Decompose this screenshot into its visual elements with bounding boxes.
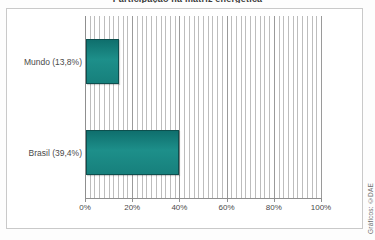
x-tick-label: 60% xyxy=(219,203,235,212)
x-tick xyxy=(179,198,180,202)
x-tick-label: 100% xyxy=(311,203,331,212)
gridline-major xyxy=(179,16,180,198)
category-label: Brasil (39,4%) xyxy=(29,148,82,158)
gridline-minor xyxy=(208,16,209,198)
gridline-minor xyxy=(189,16,190,198)
x-tick-label: 40% xyxy=(171,203,187,212)
gridline-minor xyxy=(217,16,218,198)
category-label: Mundo (13,8%) xyxy=(24,57,82,67)
x-tick xyxy=(321,198,322,202)
gridline-minor xyxy=(198,16,199,198)
x-tick xyxy=(227,198,228,202)
gridline-minor xyxy=(255,16,256,198)
gridline-minor xyxy=(312,16,313,198)
gridline-minor xyxy=(245,16,246,198)
gridline-minor xyxy=(184,16,185,198)
gridline-minor xyxy=(222,16,223,198)
chart-title: Participação na matriz energética xyxy=(0,0,375,3)
credit-text: Gráficos: ©DAE xyxy=(367,183,374,234)
x-axis-line xyxy=(85,198,321,199)
x-tick xyxy=(132,198,133,202)
plot-area xyxy=(85,16,321,198)
chart-page: Participação na matriz energética Mundo … xyxy=(0,0,375,240)
gridline-major xyxy=(321,16,322,198)
gridline-minor xyxy=(194,16,195,198)
x-tick-label: 80% xyxy=(266,203,282,212)
gridline-minor xyxy=(250,16,251,198)
gridline-major xyxy=(227,16,228,198)
gridline-minor xyxy=(264,16,265,198)
gridline-minor xyxy=(288,16,289,198)
x-tick-label: 20% xyxy=(124,203,140,212)
x-tick xyxy=(85,198,86,202)
gridline-minor xyxy=(302,16,303,198)
category-labels: Mundo (13,8%)Brasil (39,4%) xyxy=(6,16,82,198)
gridline-minor xyxy=(307,16,308,198)
gridline-minor xyxy=(212,16,213,198)
x-tick-label: 0% xyxy=(79,203,91,212)
gridline-minor xyxy=(231,16,232,198)
gridline-minor xyxy=(269,16,270,198)
gridline-minor xyxy=(283,16,284,198)
gridline-minor xyxy=(297,16,298,198)
x-tick xyxy=(274,198,275,202)
bar xyxy=(86,130,179,175)
bar xyxy=(86,39,119,84)
gridline-minor xyxy=(293,16,294,198)
gridline-minor xyxy=(203,16,204,198)
gridline-major xyxy=(274,16,275,198)
gridline-minor xyxy=(236,16,237,198)
gridline-minor xyxy=(241,16,242,198)
gridline-minor xyxy=(316,16,317,198)
gridline-minor xyxy=(279,16,280,198)
gridline-minor xyxy=(260,16,261,198)
